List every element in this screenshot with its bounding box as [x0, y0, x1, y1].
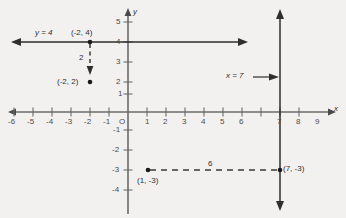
x-tick-label--2: -2	[84, 118, 91, 126]
x-tick-label--6: -6	[8, 118, 15, 126]
point-1-neg3-dot	[146, 168, 151, 173]
x-tick-label-6: 6	[239, 118, 243, 126]
x-axis-label: x	[334, 105, 338, 113]
x-tick-label-4: 4	[201, 118, 205, 126]
point-label-7-neg3: (7, -3)	[283, 165, 304, 173]
point-7-neg3-dot	[278, 168, 283, 173]
y-tick-label--3: -3	[112, 166, 119, 174]
point-label-neg2-2: (-2, 2)	[57, 78, 78, 86]
x-tick-label--5: -5	[27, 118, 34, 126]
x-tick-label--3: -3	[65, 118, 72, 126]
x-tick-label--4: -4	[46, 118, 53, 126]
point-neg2-2-dot	[88, 80, 93, 85]
y-tick-label-1: 1	[118, 90, 122, 98]
label-segment-6: 6	[208, 160, 212, 168]
label-x-equals-7: x = 7	[226, 72, 244, 80]
x-tick-label-1: 1	[145, 118, 149, 126]
y-tick-label-4: 4	[116, 38, 120, 46]
label-y-equals-4: y = 4	[35, 29, 53, 37]
y-tick-label-5: 5	[116, 18, 120, 26]
point-label-1-neg3: (1, -3)	[137, 177, 158, 185]
x-tick-label-8: 8	[296, 118, 300, 126]
point-label-neg2-4: (-2, 4)	[71, 29, 92, 37]
point-neg2-4-dot	[88, 40, 93, 45]
y-tick-label-3: 3	[116, 58, 120, 66]
y-tick-label--1: -1	[113, 126, 120, 134]
y-tick-label--4: -4	[112, 186, 119, 194]
y-axis-label: y	[133, 8, 137, 16]
label-segment-2: 2	[79, 54, 83, 62]
x-tick-label-9: 9	[315, 118, 319, 126]
y-tick-label--2: -2	[112, 146, 119, 154]
x-tick-label-7: 7	[277, 118, 281, 126]
y-tick-label-2: 2	[116, 78, 120, 86]
x-tick-label-2: 2	[163, 118, 167, 126]
x-tick-label-5: 5	[220, 118, 224, 126]
x-tick-label-3: 3	[182, 118, 186, 126]
x-tick-label--1: -1	[103, 118, 110, 126]
